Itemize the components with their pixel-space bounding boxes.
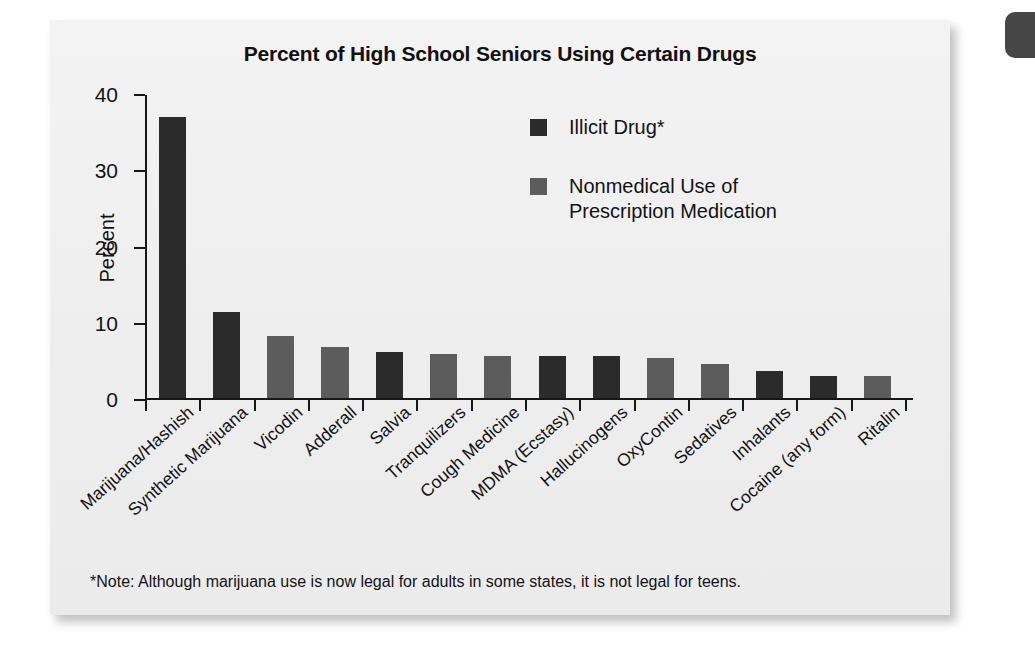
y-tick-mark: 20 [134, 247, 145, 249]
bar [864, 376, 891, 398]
bar [484, 356, 511, 398]
y-tick-label: 20 [95, 236, 118, 260]
bar [756, 371, 783, 398]
y-tick-label: 0 [106, 388, 118, 412]
bar [810, 376, 837, 398]
chart-card: Percent of High School Seniors Using Cer… [50, 20, 950, 615]
bar [430, 354, 457, 398]
x-category-label: Ritalin [854, 402, 904, 450]
legend-label-illicit: Illicit Drug* [569, 115, 665, 140]
bar [267, 336, 294, 398]
legend-label-prescription-line1: Nonmedical Use of [569, 175, 738, 197]
bar [593, 356, 620, 398]
page-corner-tab [1005, 12, 1035, 58]
chart-legend: Illicit Drug* Nonmedical Use of Prescrip… [530, 115, 860, 258]
bar [321, 347, 348, 398]
y-tick-label: 30 [95, 159, 118, 183]
bar [159, 117, 186, 398]
bar [701, 364, 728, 398]
y-tick-label: 10 [95, 312, 118, 336]
legend-item-illicit: Illicit Drug* [530, 115, 860, 140]
x-axis-category-labels: Marijuana/HashishSynthetic MarijuanaVico… [145, 402, 935, 572]
bar [376, 352, 403, 399]
bar [539, 356, 566, 398]
legend-label-prescription-line2: Prescription Medication [569, 200, 777, 222]
y-tick-mark: 40 [134, 94, 145, 96]
bar [647, 358, 674, 398]
x-category-label: Adderall [299, 402, 361, 461]
legend-swatch-prescription-icon [530, 178, 547, 195]
x-category-label: Vicodin [250, 402, 306, 456]
screenshot-root: Percent of High School Seniors Using Cer… [0, 0, 1035, 666]
legend-swatch-illicit-icon [530, 119, 547, 136]
y-tick-mark: 30 [134, 170, 145, 172]
y-tick-mark: 0 [134, 399, 145, 401]
y-tick-label: 40 [95, 83, 118, 107]
legend-item-prescription: Nonmedical Use of Prescription Medicatio… [530, 174, 860, 224]
legend-label-prescription: Nonmedical Use of Prescription Medicatio… [569, 174, 777, 224]
chart-footnote: *Note: Although marijuana use is now leg… [90, 573, 920, 591]
y-tick-mark: 10 [134, 323, 145, 325]
x-category-label: Salvia [366, 402, 415, 450]
chart-card-surface: Percent of High School Seniors Using Cer… [50, 20, 950, 615]
bar [213, 312, 240, 398]
chart-title: Percent of High School Seniors Using Cer… [50, 42, 950, 66]
